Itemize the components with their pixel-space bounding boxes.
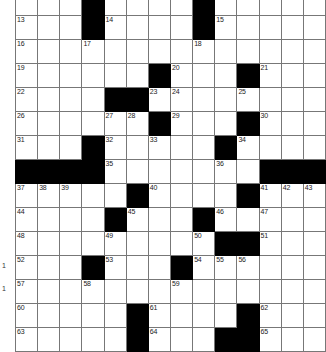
letter-cell[interactable]: 4 bbox=[104, 0, 126, 16]
letter-cell[interactable]: 13 bbox=[16, 16, 38, 40]
letter-cell[interactable]: 52 bbox=[16, 256, 38, 280]
letter-cell[interactable]: 31 bbox=[16, 136, 38, 160]
letter-cell[interactable] bbox=[170, 160, 192, 184]
letter-cell[interactable] bbox=[170, 184, 192, 208]
letter-cell[interactable]: 7 bbox=[170, 0, 192, 16]
letter-cell[interactable] bbox=[237, 160, 259, 184]
letter-cell[interactable] bbox=[104, 184, 126, 208]
letter-cell[interactable] bbox=[126, 136, 148, 160]
letter-cell[interactable] bbox=[82, 208, 104, 232]
letter-cell[interactable]: 21 bbox=[259, 64, 281, 88]
letter-cell[interactable] bbox=[281, 304, 303, 328]
letter-cell[interactable] bbox=[170, 208, 192, 232]
letter-cell[interactable]: 23 bbox=[148, 88, 170, 112]
letter-cell[interactable] bbox=[281, 40, 303, 64]
letter-cell[interactable] bbox=[38, 112, 60, 136]
letter-cell[interactable]: 1 bbox=[16, 0, 38, 16]
letter-cell[interactable]: 14 bbox=[104, 16, 126, 40]
letter-cell[interactable] bbox=[193, 304, 215, 328]
letter-cell[interactable]: 59 bbox=[170, 280, 192, 304]
letter-cell[interactable]: 37 bbox=[16, 184, 38, 208]
letter-cell[interactable]: 51 bbox=[259, 232, 281, 256]
letter-cell[interactable]: 20 bbox=[170, 64, 192, 88]
letter-cell[interactable] bbox=[281, 136, 303, 160]
letter-cell[interactable] bbox=[60, 40, 82, 64]
letter-cell[interactable] bbox=[259, 280, 281, 304]
letter-cell[interactable]: 8 bbox=[215, 0, 237, 16]
letter-cell[interactable] bbox=[259, 136, 281, 160]
letter-cell[interactable] bbox=[193, 328, 215, 352]
letter-cell[interactable]: 64 bbox=[148, 328, 170, 352]
letter-cell[interactable] bbox=[148, 232, 170, 256]
letter-cell[interactable] bbox=[215, 112, 237, 136]
letter-cell[interactable]: 38 bbox=[38, 184, 60, 208]
letter-cell[interactable] bbox=[170, 136, 192, 160]
letter-cell[interactable]: 40 bbox=[148, 184, 170, 208]
letter-cell[interactable] bbox=[82, 88, 104, 112]
letter-cell[interactable]: 62 bbox=[259, 304, 281, 328]
letter-cell[interactable] bbox=[215, 184, 237, 208]
letter-cell[interactable]: 6 bbox=[148, 0, 170, 16]
letter-cell[interactable]: 15 bbox=[215, 16, 237, 40]
letter-cell[interactable] bbox=[38, 40, 60, 64]
letter-cell[interactable]: 58 bbox=[82, 280, 104, 304]
letter-cell[interactable] bbox=[281, 208, 303, 232]
letter-cell[interactable] bbox=[126, 160, 148, 184]
letter-cell[interactable] bbox=[281, 232, 303, 256]
letter-cell[interactable] bbox=[104, 304, 126, 328]
letter-cell[interactable] bbox=[104, 280, 126, 304]
letter-cell[interactable] bbox=[215, 304, 237, 328]
letter-cell[interactable] bbox=[303, 280, 325, 304]
letter-cell[interactable] bbox=[303, 256, 325, 280]
letter-cell[interactable] bbox=[148, 208, 170, 232]
letter-cell[interactable] bbox=[82, 64, 104, 88]
letter-cell[interactable]: 28 bbox=[126, 112, 148, 136]
letter-cell[interactable] bbox=[281, 88, 303, 112]
letter-cell[interactable] bbox=[60, 112, 82, 136]
letter-cell[interactable] bbox=[60, 280, 82, 304]
letter-cell[interactable]: 22 bbox=[16, 88, 38, 112]
letter-cell[interactable] bbox=[193, 280, 215, 304]
letter-cell[interactable] bbox=[193, 184, 215, 208]
letter-cell[interactable] bbox=[148, 160, 170, 184]
letter-cell[interactable]: 9 bbox=[237, 0, 259, 16]
letter-cell[interactable] bbox=[170, 232, 192, 256]
letter-cell[interactable]: 3 bbox=[60, 0, 82, 16]
letter-cell[interactable]: 29 bbox=[170, 112, 192, 136]
letter-cell[interactable] bbox=[303, 40, 325, 64]
letter-cell[interactable] bbox=[193, 64, 215, 88]
letter-cell[interactable] bbox=[38, 328, 60, 352]
letter-cell[interactable] bbox=[126, 16, 148, 40]
letter-cell[interactable] bbox=[303, 328, 325, 352]
letter-cell[interactable] bbox=[126, 280, 148, 304]
letter-cell[interactable] bbox=[237, 208, 259, 232]
letter-cell[interactable] bbox=[60, 232, 82, 256]
letter-cell[interactable] bbox=[215, 40, 237, 64]
letter-cell[interactable] bbox=[281, 64, 303, 88]
letter-cell[interactable] bbox=[259, 40, 281, 64]
letter-cell[interactable] bbox=[38, 280, 60, 304]
letter-cell[interactable]: 49 bbox=[104, 232, 126, 256]
letter-cell[interactable]: 56 bbox=[237, 256, 259, 280]
letter-cell[interactable]: 45 bbox=[126, 208, 148, 232]
letter-cell[interactable] bbox=[170, 16, 192, 40]
letter-cell[interactable] bbox=[38, 208, 60, 232]
letter-cell[interactable] bbox=[60, 136, 82, 160]
letter-cell[interactable] bbox=[215, 64, 237, 88]
letter-cell[interactable] bbox=[38, 16, 60, 40]
letter-cell[interactable]: 17 bbox=[82, 40, 104, 64]
letter-cell[interactable]: 35 bbox=[104, 160, 126, 184]
letter-cell[interactable]: 57 bbox=[16, 280, 38, 304]
letter-cell[interactable] bbox=[104, 328, 126, 352]
letter-cell[interactable] bbox=[38, 256, 60, 280]
letter-cell[interactable]: 60 bbox=[16, 304, 38, 328]
letter-cell[interactable]: 24 bbox=[170, 88, 192, 112]
letter-cell[interactable] bbox=[303, 304, 325, 328]
letter-cell[interactable]: 27 bbox=[104, 112, 126, 136]
letter-cell[interactable]: 39 bbox=[60, 184, 82, 208]
letter-cell[interactable]: 33 bbox=[148, 136, 170, 160]
letter-cell[interactable] bbox=[303, 88, 325, 112]
letter-cell[interactable]: 48 bbox=[16, 232, 38, 256]
letter-cell[interactable]: 5 bbox=[126, 0, 148, 16]
letter-cell[interactable] bbox=[193, 88, 215, 112]
